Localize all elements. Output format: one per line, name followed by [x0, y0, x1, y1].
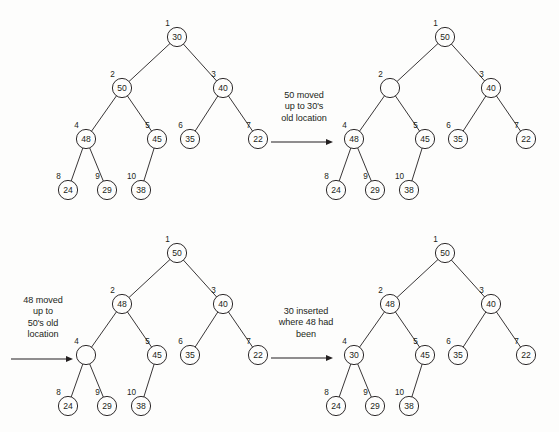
tree-edge [195, 312, 218, 347]
tree-edge [463, 96, 486, 131]
node-value: 45 [152, 134, 162, 144]
caption-50-moved: 50 moved up to 30's old location [268, 90, 340, 124]
node-value: 29 [102, 185, 112, 195]
node-value: 22 [521, 134, 531, 144]
tree-edge [360, 96, 385, 131]
tree-node: 403 [479, 70, 500, 98]
node-value: 22 [253, 350, 263, 360]
tree-node: 356 [446, 337, 467, 365]
tree-edge [463, 312, 486, 347]
node-value: 22 [253, 134, 263, 144]
node-index-label: 8 [324, 388, 329, 397]
node-index-label: 6 [178, 337, 183, 346]
tree-diagram-canvas: 3015024034844553562272482993810501240348… [0, 0, 559, 432]
tree-node: 455 [413, 337, 434, 365]
arrow-head [326, 355, 333, 361]
node-index-label: 1 [165, 19, 170, 28]
tree-edge [129, 260, 170, 298]
tree-node: 356 [178, 121, 199, 149]
node-index-label: 7 [246, 337, 251, 346]
node-value: 30 [172, 32, 182, 42]
tree-node: 304 [342, 337, 363, 365]
tree-node: 3810 [127, 172, 151, 200]
node-index-label: 9 [363, 388, 368, 397]
node-value: 40 [486, 299, 496, 309]
node-value: 50 [440, 248, 450, 258]
node-value: 48 [81, 134, 91, 144]
tree-node: 484 [342, 121, 363, 149]
arrow-head [326, 139, 333, 145]
node-value: 45 [152, 350, 162, 360]
node-index-label: 5 [145, 337, 150, 346]
tree-after-48-moved: 50148240344553562272482993810 [56, 235, 267, 416]
tree-node: 227 [246, 337, 267, 365]
node-value: 29 [370, 401, 380, 411]
tree-node: 455 [145, 337, 166, 365]
node-index-label: 6 [446, 337, 451, 346]
tree-node: 299 [363, 172, 384, 200]
node-value: 29 [102, 401, 112, 411]
node-value: 48 [349, 134, 359, 144]
heap-sift-down-figure: 3015024034844553562272482993810501240348… [0, 0, 559, 432]
tree-edges [339, 44, 520, 182]
node-index-label: 3 [211, 286, 216, 295]
node-index-label: 2 [378, 286, 383, 295]
tree-edges [71, 260, 252, 398]
node-index-label: 1 [165, 235, 170, 244]
node-value: 29 [370, 185, 380, 195]
tree-node: 301 [165, 19, 186, 47]
node-value: 38 [404, 185, 414, 195]
node-value: 38 [404, 401, 414, 411]
caption-48-moved: 48 moved up to 50's old location [8, 295, 78, 341]
node-index-label: 1 [433, 19, 438, 28]
tree-node: 299 [95, 172, 116, 200]
node-value: 35 [453, 350, 463, 360]
tree-node: 248 [56, 172, 77, 200]
node-value: 45 [420, 134, 430, 144]
node-index-label: 5 [413, 121, 418, 130]
tree-node: 502 [110, 70, 131, 98]
node-value: 30 [349, 350, 359, 360]
tree-edge [397, 44, 438, 82]
node-index-label: 8 [324, 172, 329, 181]
node-circle [76, 345, 95, 364]
node-index-label: 1 [433, 235, 438, 244]
node-index-label: 4 [342, 121, 347, 130]
arrow-head [66, 356, 73, 362]
caption-30-inserted: 30 inserted where 48 had been [268, 306, 344, 340]
node-index-label: 7 [514, 337, 519, 346]
node-index-label: 3 [211, 70, 216, 79]
node-index-label: 9 [95, 172, 100, 181]
node-index-label: 10 [127, 388, 136, 397]
tree-edge [144, 148, 154, 181]
tree-node: 356 [446, 121, 467, 149]
node-index-label: 10 [127, 172, 136, 181]
node-index-label: 10 [395, 172, 404, 181]
tree-node: 501 [433, 19, 454, 47]
node-value: 50 [172, 248, 182, 258]
node-index-label: 9 [95, 388, 100, 397]
tree-edge [92, 312, 117, 347]
node-index-label: 9 [363, 172, 368, 181]
tree-node-empty: 4 [74, 337, 95, 365]
tree-node: 299 [95, 388, 116, 416]
node-value: 40 [486, 83, 496, 93]
node-index-label: 5 [413, 337, 418, 346]
node-value: 35 [453, 134, 463, 144]
tree-node: 484 [74, 121, 95, 149]
tree-edge [195, 96, 218, 131]
tree-node: 227 [514, 121, 535, 149]
tree-node: 299 [363, 388, 384, 416]
tree-node: 403 [211, 286, 232, 314]
tree-node: 3810 [395, 388, 419, 416]
tree-node: 482 [110, 286, 131, 314]
tree-edge [129, 44, 170, 82]
tree-node: 248 [56, 388, 77, 416]
node-index-label: 7 [514, 121, 519, 130]
tree-node: 455 [145, 121, 166, 149]
node-index-label: 6 [178, 121, 183, 130]
node-index-label: 10 [395, 388, 404, 397]
node-value: 24 [331, 401, 341, 411]
tree-edge [92, 96, 117, 131]
node-value: 24 [63, 185, 73, 195]
